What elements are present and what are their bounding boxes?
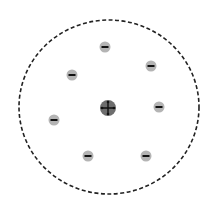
electron bbox=[146, 61, 157, 72]
minus-sign-icon bbox=[85, 155, 92, 157]
nucleus bbox=[100, 100, 116, 116]
electron bbox=[83, 151, 94, 162]
electron bbox=[67, 70, 78, 81]
minus-sign-icon bbox=[156, 106, 163, 108]
electron bbox=[154, 102, 165, 113]
plus-endpoint-dot bbox=[107, 113, 110, 116]
electron bbox=[49, 115, 60, 126]
plus-endpoint-dot bbox=[107, 101, 110, 104]
plus-endpoint-dot bbox=[101, 107, 104, 110]
electron bbox=[141, 151, 152, 162]
electron bbox=[100, 42, 111, 53]
minus-sign-icon bbox=[148, 65, 155, 67]
plum-pudding-atom-diagram bbox=[0, 0, 217, 213]
minus-sign-icon bbox=[69, 74, 76, 76]
minus-sign-icon bbox=[102, 46, 109, 48]
plus-endpoint-dot bbox=[113, 107, 116, 110]
minus-sign-icon bbox=[143, 155, 150, 157]
minus-sign-icon bbox=[51, 119, 58, 121]
